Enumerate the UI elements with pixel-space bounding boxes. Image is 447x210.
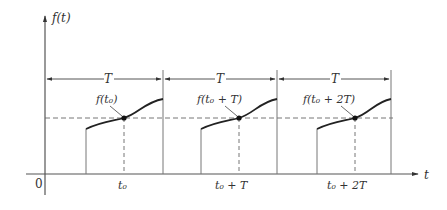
period-label: T [331, 72, 340, 86]
waveform-period-1: f(t₀) t₀ [86, 93, 163, 192]
origin-label: 0 [35, 177, 43, 191]
tick-label: t₀ + 2T [327, 179, 368, 192]
waveform-period-3: f(t₀ + 2T) t₀ + 2T [302, 93, 391, 192]
sample-point [121, 115, 126, 120]
waveform-period-2: f(t₀ + T) t₀ + T [196, 93, 277, 192]
tick-label: t₀ + T [215, 179, 249, 192]
sample-point [236, 115, 241, 120]
x-axis-label: t [424, 168, 429, 182]
periodic-function-diagram: f(t) t 0 T T T f(t₀) t₀ f(t₀ + T) [0, 0, 447, 210]
period-label: T [216, 72, 225, 86]
period-arrow-2: T [165, 72, 275, 86]
period-label: T [104, 72, 113, 86]
period-arrow-3: T [279, 72, 389, 86]
point-label: f(t₀) [95, 93, 117, 106]
period-arrow-1: T [47, 72, 161, 86]
sample-point [352, 115, 357, 120]
y-axis-label: f(t) [51, 11, 71, 25]
point-label: f(t₀ + 2T) [302, 93, 355, 106]
point-label: f(t₀ + T) [196, 93, 242, 106]
tick-label: t₀ [118, 179, 127, 192]
